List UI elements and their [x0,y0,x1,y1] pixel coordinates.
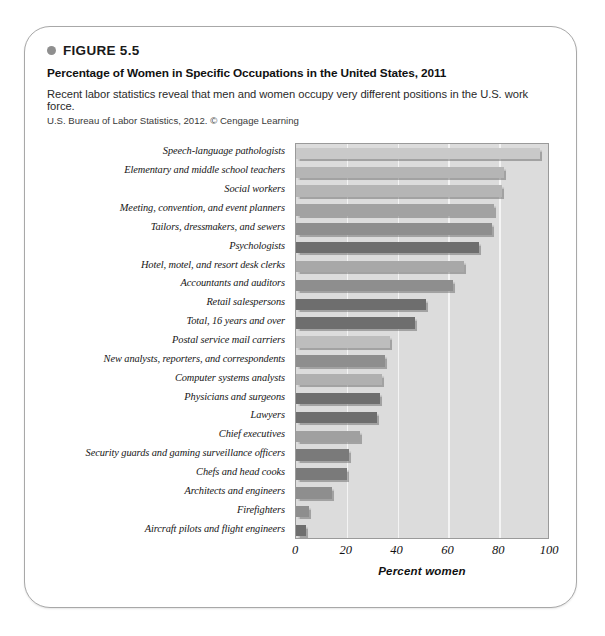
x-axis-label: Percent women [295,565,549,577]
figure-header: FIGURE 5.5 Percentage of Women in Specif… [47,41,558,126]
bar-row [296,261,548,272]
bar [296,280,453,291]
figure-source: U.S. Bureau of Labor Statistics, 2012. ©… [47,115,558,126]
category-label: Computer systems analysts [175,372,285,383]
bar-series [296,144,548,538]
bar-row [296,167,548,178]
category-label: Postal service mail carriers [172,334,285,345]
figure-card: FIGURE 5.5 Percentage of Women in Specif… [24,26,577,608]
bar-row [296,336,548,347]
x-tick-label: 40 [390,543,403,558]
bar-chart: Speech-language pathologistsElementary a… [39,135,563,590]
bar [296,487,332,498]
bar-row [296,148,548,159]
category-label: Physicians and surgeons [184,391,285,402]
bar-row [296,280,548,291]
bar [296,374,382,385]
bar [296,185,502,196]
category-label: Architects and engineers [184,485,285,496]
bar-row [296,223,548,234]
x-tick-label: 80 [492,543,505,558]
bar-row [296,355,548,366]
bar-row [296,449,548,460]
bar-row [296,506,548,517]
bar-row [296,412,548,423]
bar-row [296,393,548,404]
bar [296,167,504,178]
x-tick-label: 100 [540,543,559,558]
category-label: Social workers [224,183,285,194]
figure-number-row: FIGURE 5.5 [47,41,558,59]
bar [296,299,426,310]
category-label: Security guards and gaming surveillance … [86,447,285,458]
category-label: Lawyers [250,409,285,420]
category-label: Chefs and head cooks [196,466,285,477]
bar-row [296,317,548,328]
bar-row [296,525,548,536]
bar [296,223,492,234]
bar [296,336,390,347]
category-label: Psychologists [229,240,285,251]
category-label: Aircraft pilots and flight engineers [145,523,285,534]
bar [296,242,479,253]
bar-row [296,374,548,385]
bar-row [296,204,548,215]
bar [296,204,494,215]
bar-row [296,299,548,310]
category-label: New analysts, reporters, and corresponde… [104,353,285,364]
bar-row [296,242,548,253]
bar-row [296,431,548,442]
bar [296,148,540,159]
plot-area [295,143,549,539]
category-labels: Speech-language pathologistsElementary a… [39,143,289,539]
category-label: Chief executives [219,428,285,439]
category-label: Firefighters [237,504,285,515]
bar [296,355,385,366]
bar [296,261,464,272]
figure-title: Percentage of Women in Specific Occupati… [47,66,558,80]
bar-row [296,185,548,196]
category-label: Hotel, motel, and resort desk clerks [141,259,285,270]
bar [296,506,309,517]
bar-row [296,468,548,479]
x-axis-ticks: 020406080100 [295,543,549,561]
category-label: Elementary and middle school teachers [124,164,285,175]
bar [296,317,415,328]
category-label: Accountants and auditors [181,277,285,288]
bar [296,525,306,536]
bullet-icon [47,46,56,55]
bar [296,412,377,423]
bar [296,449,349,460]
figure-description: Recent labor statistics reveal that men … [47,88,558,112]
x-tick-label: 20 [340,543,353,558]
category-label: Total, 16 years and over [186,315,285,326]
x-tick-label: 0 [292,543,298,558]
bar [296,468,347,479]
figure-number: FIGURE 5.5 [63,43,140,58]
bar [296,393,380,404]
category-label: Retail salespersons [206,296,285,307]
x-tick-label: 60 [441,543,454,558]
category-label: Speech-language pathologists [163,145,285,156]
category-label: Meeting, convention, and event planners [120,202,285,213]
category-label: Tailors, dressmakers, and sewers [151,221,285,232]
bar [296,431,360,442]
bar-row [296,487,548,498]
